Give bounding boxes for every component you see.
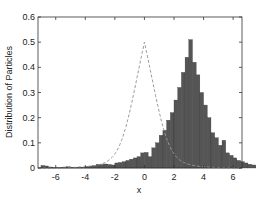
- histogram-bar: [237, 160, 241, 168]
- y-tick-label: 0.2: [22, 113, 35, 123]
- histogram-bars: [41, 40, 256, 168]
- y-tick-label: 0.6: [22, 12, 35, 22]
- histogram-bar: [137, 157, 141, 168]
- y-tick-label: 0.1: [22, 138, 35, 148]
- x-tick-label: -2: [111, 172, 119, 182]
- histogram-bar: [119, 162, 123, 168]
- histogram-bar: [200, 93, 204, 169]
- histogram-bar: [204, 105, 208, 168]
- histogram-bar: [181, 72, 185, 168]
- y-axis-label: Distribution of Particles: [4, 45, 14, 138]
- histogram-bar: [218, 145, 222, 168]
- histogram-bar: [144, 152, 148, 168]
- histogram-bar: [163, 130, 167, 168]
- histogram-bar: [159, 135, 163, 168]
- histogram-bar: [207, 118, 211, 168]
- y-tick-label: 0.5: [22, 37, 35, 47]
- histogram-bar: [222, 140, 226, 168]
- histogram-bar: [111, 165, 115, 168]
- histogram-bar: [255, 165, 256, 168]
- histogram-bar: [170, 113, 174, 168]
- x-axis-label: x: [137, 185, 142, 195]
- histogram-bar: [115, 163, 119, 168]
- histogram-bar: [148, 157, 152, 168]
- histogram-bar: [196, 75, 200, 168]
- x-tick-label: 0: [142, 172, 147, 182]
- histogram-bar: [122, 162, 126, 168]
- histogram-bar: [252, 165, 256, 168]
- y-tick-label: 0.3: [22, 88, 35, 98]
- histogram-chart: -6-4-20246 00.10.20.30.40.50.6 x Distrib…: [0, 0, 256, 200]
- histogram-bar: [192, 62, 196, 168]
- histogram-bar: [152, 148, 156, 168]
- x-tick-label: -6: [52, 172, 60, 182]
- x-tick-label: 6: [231, 172, 236, 182]
- y-tick-label: 0.4: [22, 62, 35, 72]
- histogram-bar: [211, 133, 215, 168]
- histogram-bar: [100, 164, 104, 168]
- histogram-bar: [215, 138, 219, 168]
- y-tick-label: 0: [30, 163, 35, 173]
- histogram-bar: [226, 153, 230, 168]
- histogram-bar: [233, 158, 237, 168]
- histogram-bar: [130, 159, 134, 168]
- histogram-bar: [189, 40, 193, 168]
- histogram-bar: [185, 57, 189, 168]
- histogram-bar: [107, 164, 111, 168]
- histogram-bar: [104, 164, 108, 168]
- histogram-bar: [248, 164, 252, 168]
- histogram-bar: [244, 163, 248, 168]
- x-tick-label: 4: [201, 172, 206, 182]
- histogram-bar: [156, 143, 160, 168]
- histogram-bar: [178, 87, 182, 168]
- histogram-bar: [126, 160, 130, 168]
- histogram-bar: [141, 153, 145, 168]
- x-tick-label: 2: [171, 172, 176, 182]
- x-tick-label: -4: [81, 172, 89, 182]
- histogram-bar: [133, 158, 137, 168]
- histogram-bar: [229, 155, 233, 168]
